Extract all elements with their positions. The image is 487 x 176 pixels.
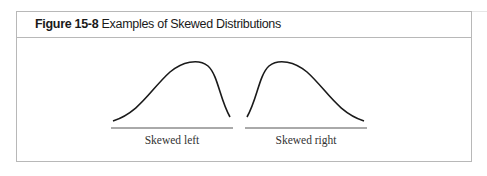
skewed-right-label: Skewed right [244,134,368,146]
skewed-right-curve [247,62,364,121]
skewed-left-label: Skewed left [110,134,234,146]
skew-chart [0,0,487,176]
skewed-left-curve [113,62,230,121]
